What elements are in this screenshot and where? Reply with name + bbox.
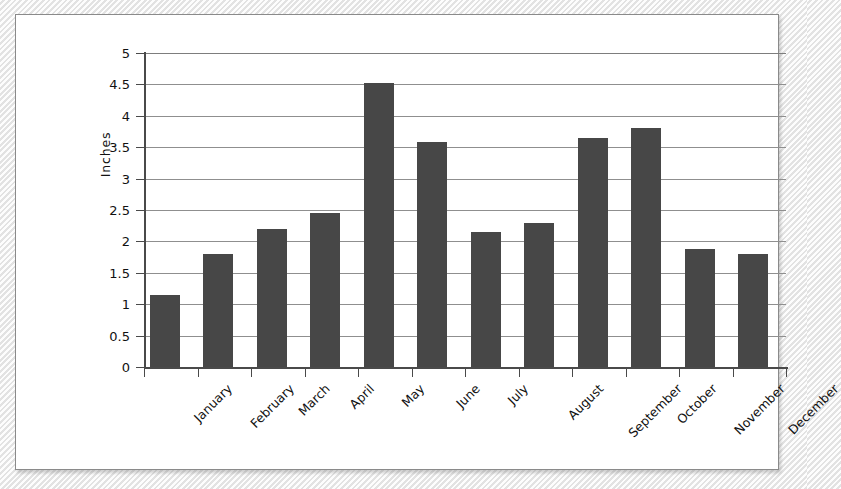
y-axis-tick [136,147,145,148]
x-axis-tick-label: December [785,381,841,437]
x-axis-tick-label: August [564,381,606,423]
gridline [144,241,786,242]
x-axis-tick [679,368,680,377]
x-axis-tick-label: May [399,381,428,410]
y-axis-tick-label: 5 [86,46,130,61]
x-axis-tick [519,368,520,377]
x-axis-line [144,367,788,369]
y-axis-tick [136,116,145,117]
gridline [144,116,786,117]
gridline [144,210,786,211]
x-axis-tick-label: July [505,381,532,408]
gridline [144,147,786,148]
x-axis-tick [733,368,734,377]
y-axis-tick-label: 0.5 [86,328,130,343]
y-axis-tick [136,210,145,211]
bar-january[interactable] [150,295,180,367]
y-axis-tick [136,304,145,305]
y-axis-tick [136,241,145,242]
bar-march[interactable] [257,229,287,367]
x-axis-tick-label: November [731,381,788,438]
gridline [144,53,786,54]
x-axis-tick [572,368,573,377]
bar-august[interactable] [524,223,554,367]
gridline [144,179,786,180]
x-axis-tick-label: September [625,381,684,440]
x-axis-tick [144,368,145,377]
bar-december[interactable] [738,254,768,367]
x-axis-tick [626,368,627,377]
bar-november[interactable] [685,249,715,367]
y-axis-tick [136,84,145,85]
bar-july[interactable] [471,232,501,367]
gridline [144,84,786,85]
y-axis-tick [136,273,145,274]
bar-april[interactable] [310,213,340,367]
x-axis-tick-label: January [191,381,235,425]
bar-may[interactable] [364,83,394,367]
y-axis-tick-label: 1 [86,297,130,312]
chart-panel: Inches 54.543.532.521.510.50 JanuaryFebr… [15,14,779,470]
y-axis-tick [136,179,145,180]
y-axis-tick [136,336,145,337]
x-axis-tick [198,368,199,377]
y-axis-tick-label: 4.5 [86,77,130,92]
x-axis-tick [465,368,466,377]
y-axis-tick-label: 0 [86,360,130,375]
y-axis-tick-label: 3.5 [86,140,130,155]
bar-june[interactable] [417,142,447,367]
y-axis-tick-label: 4 [86,108,130,123]
bar-february[interactable] [203,254,233,367]
y-axis-tick-label: 2.5 [86,203,130,218]
bar-october[interactable] [631,128,661,367]
x-axis-tick [786,368,787,377]
y-axis-tick [136,53,145,54]
x-axis-tick-label: March [295,381,333,419]
x-axis-tick-label: February [247,381,297,431]
y-axis-tick-label: 2 [86,234,130,249]
x-axis-tick [305,368,306,377]
x-axis-tick-label: April [346,381,377,412]
plot-area [144,53,786,367]
x-axis-tick [412,368,413,377]
y-axis-tick-label: 1.5 [86,265,130,280]
bar-september[interactable] [578,138,608,367]
x-axis-tick [251,368,252,377]
x-axis-tick [358,368,359,377]
y-axis-tick-label: 3 [86,171,130,186]
x-axis-tick-label: June [453,381,483,411]
